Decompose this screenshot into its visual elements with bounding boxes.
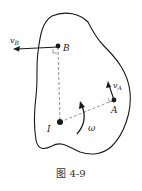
right-angle-marker-b (53, 49, 57, 53)
velocity-vector-b (17, 47, 58, 49)
label-a: A (110, 105, 118, 115)
label-b: B (62, 43, 70, 53)
arrowhead-icon (79, 101, 85, 109)
rigid-body-diagram: B A I ω vB vA (0, 0, 142, 191)
va-subscript: A (117, 84, 123, 91)
label-omega: ω (88, 123, 96, 133)
arrowhead-icon (106, 81, 111, 88)
point-a (112, 98, 117, 103)
point-b (56, 44, 61, 49)
label-va: vA (113, 81, 123, 91)
dashed-line-b-to-i (58, 47, 60, 122)
figure-caption: 图 4-9 (0, 165, 142, 180)
angular-velocity-arrow (77, 106, 84, 134)
vb-subscript: B (14, 39, 20, 46)
arrowhead-icon (13, 46, 20, 52)
point-i-instant-center (57, 119, 63, 125)
label-vb: vB (10, 36, 20, 46)
dashed-line-i-to-a (60, 100, 114, 122)
label-i: I (46, 124, 51, 134)
